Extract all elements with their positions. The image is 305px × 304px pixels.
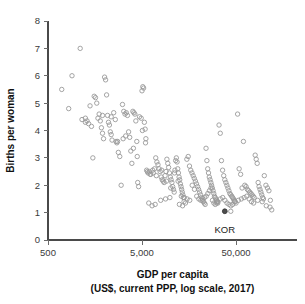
y-tick-label: 7 [35,43,40,54]
data-point [193,179,197,183]
data-point [91,156,95,160]
x-axis-subtitle: (US$, current PPP, log scale, 2017) [91,283,255,294]
data-point [191,173,195,177]
data-point [147,201,151,205]
data-point [206,171,210,175]
data-point [218,131,222,135]
data-point [154,173,158,177]
data-point [237,167,241,171]
data-point [225,183,229,187]
data-point [168,195,172,199]
data-point [100,131,104,135]
data-point [107,123,111,127]
data-point [60,87,64,91]
data-point [135,139,139,143]
data-points [60,46,274,213]
data-point [255,161,259,165]
data-point [259,190,263,194]
data-point [238,172,242,176]
data-point [134,119,138,123]
x-tick-label: 5,000 [130,247,154,258]
annotation-label-kor: KOR [214,224,235,235]
data-point [190,171,194,175]
data-point [155,160,159,164]
data-point [223,178,227,182]
data-point [95,101,99,105]
y-tick-label: 1 [35,207,40,218]
data-point [262,173,266,177]
x-tick-label: 50,000 [221,247,250,258]
data-point [136,184,140,188]
data-point [217,123,221,127]
data-point [108,130,112,134]
chart-figure: 0123456785005,00050,000 KOR Births per w… [0,0,305,304]
data-point [103,78,107,82]
data-point [255,198,259,202]
data-point [135,154,139,158]
data-point [158,198,162,202]
y-tick-label: 4 [35,125,40,136]
data-point [123,134,127,138]
data-point [261,197,265,201]
data-point [142,120,146,124]
data-point [106,120,110,124]
y-tick-label: 6 [35,70,40,81]
data-point [66,106,70,110]
data-point [126,130,130,134]
data-point [129,149,133,153]
data-point [206,167,210,171]
data-point [70,74,74,78]
annotations: KOR [214,224,235,235]
y-tick-label: 0 [35,234,40,245]
data-point [109,132,113,136]
data-point [119,183,123,187]
data-point [165,157,169,161]
y-axis-title: Births per woman [5,88,16,172]
data-point [78,46,82,50]
data-point [112,111,116,115]
y-tick-label: 5 [35,98,40,109]
data-point [219,158,223,162]
data-point [131,146,135,150]
x-tick-label: 500 [40,247,56,258]
data-point [174,156,178,160]
y-tick-label: 2 [35,180,40,191]
data-point [172,190,176,194]
data-point [166,165,170,169]
data-point [229,209,233,213]
highlighted-data-point-kor [222,209,227,214]
data-point [101,137,105,141]
y-tick-label: 8 [35,15,40,26]
data-point [163,197,167,201]
scatter-plot: 0123456785005,00050,000 KOR Births per w… [0,0,305,304]
data-point [121,137,125,141]
data-point [120,102,124,106]
x-axis-title: GDP per capita [137,269,209,280]
data-point [241,139,245,143]
data-point [102,75,106,79]
data-point [130,161,134,165]
data-point [99,126,103,130]
data-point [204,146,208,150]
data-point [104,93,108,97]
data-point [118,154,122,158]
data-point [190,183,194,187]
axes: 0123456785005,00050,000 [35,15,297,258]
data-point [235,112,239,116]
data-point [166,161,170,165]
data-point [197,190,201,194]
data-point [258,187,262,191]
data-point [170,180,174,184]
data-point [205,158,209,162]
data-point [194,182,198,186]
data-point [268,198,272,202]
data-point [257,184,261,188]
data-point [220,168,224,172]
data-point [224,180,228,184]
data-point [88,104,92,108]
data-point [192,176,196,180]
data-point [189,168,193,172]
data-point [226,186,230,190]
data-point [113,117,117,121]
axis-titles: Births per womanGDP per capita(US$, curr… [5,88,254,294]
